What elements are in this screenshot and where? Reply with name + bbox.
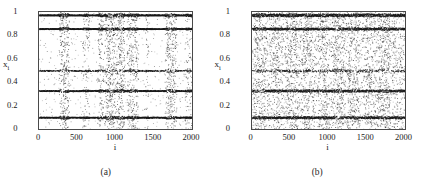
y-tick-label-b-1: 0.2 [219,100,230,109]
x-tick-b-2 [328,129,329,130]
plot-area-a [38,11,193,130]
scatter-plot-b [252,12,405,129]
x-axis-label-b: i [326,143,329,152]
x-tick-label-b-0: 0 [248,133,252,142]
figure-container: xi i (a) 00.20.40.60.810500100015002000 … [0,0,423,194]
y-tick-b-2 [251,82,252,83]
y-tick-a-1 [38,106,39,107]
y-tick-a-0 [38,129,39,130]
x-tick-label-b-1: 500 [282,133,295,142]
x-tick-label-a-1: 500 [70,133,83,142]
x-tick-label-a-0: 0 [36,133,40,142]
y-tick-label-b-0: 0 [226,124,230,133]
y-tick-label-a-3: 0.6 [7,54,18,63]
y-tick-a-3 [38,59,39,60]
y-tick-label-a-4: 0.8 [7,30,18,39]
x-tick-a-4 [191,129,192,130]
x-tick-a-1 [77,129,78,130]
y-tick-label-a-2: 0.4 [7,77,18,86]
panel-a: xi i (a) 00.20.40.60.810500100015002000 [0,0,212,194]
x-tick-a-2 [116,129,117,130]
y-tick-label-a-0: 0 [13,124,17,133]
x-tick-b-0 [252,129,253,130]
plot-area-b [251,11,406,130]
y-tick-label-b-4: 0.8 [219,30,230,39]
y-tick-a-5 [38,12,39,13]
y-tick-label-b-2: 0.4 [219,77,230,86]
subcaption-a: (a) [0,168,212,178]
x-tick-label-b-4: 2000 [395,133,412,142]
y-tick-b-3 [251,59,252,60]
y-tick-b-4 [251,35,252,36]
y-tick-label-a-1: 0.2 [7,100,18,109]
x-tick-a-3 [154,129,155,130]
y-tick-a-2 [38,82,39,83]
x-tick-b-1 [290,129,291,130]
x-tick-b-4 [404,129,405,130]
x-tick-label-b-2: 1000 [319,133,336,142]
y-tick-label-b-5: 1 [226,7,230,16]
y-tick-a-4 [38,35,39,36]
x-tick-label-a-3: 1500 [144,133,161,142]
y-tick-b-5 [251,12,252,13]
x-tick-label-a-2: 1000 [106,133,123,142]
y-tick-b-0 [251,129,252,130]
x-tick-a-0 [39,129,40,130]
scatter-plot-a [39,12,192,129]
x-tick-b-3 [366,129,367,130]
subcaption-b: (b) [212,168,423,178]
x-axis-label-a: i [114,143,117,152]
x-tick-label-b-3: 1500 [357,133,374,142]
panel-b: xi i (b) 00.20.40.60.810500100015002000 [212,0,423,194]
y-tick-b-1 [251,106,252,107]
x-tick-label-a-4: 2000 [183,133,200,142]
y-tick-label-b-3: 0.6 [219,54,230,63]
y-tick-label-a-5: 1 [13,7,17,16]
